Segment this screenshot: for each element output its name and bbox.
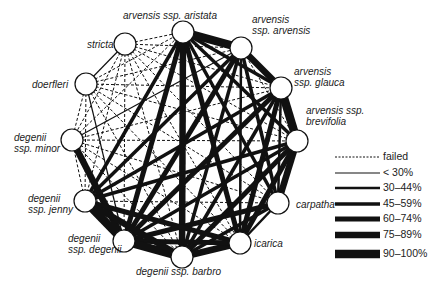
node-stricta: [114, 33, 136, 55]
node-arvensis: [230, 37, 252, 59]
legend-label: 45–59%: [383, 197, 422, 209]
legend-label: 90–100%: [383, 247, 427, 259]
label-doerfleri: doerfleri: [32, 79, 68, 90]
label-stricta: stricta: [87, 39, 114, 50]
label-carpatha: carpatha: [296, 199, 335, 210]
node-brevifolia: [286, 130, 308, 152]
network-diagram: [0, 0, 438, 290]
legend-label: 30–44%: [383, 181, 422, 193]
label-degenii: degeniissp. degenii: [68, 233, 121, 255]
legend-label: failed: [383, 150, 408, 162]
node-barbro: [171, 246, 193, 268]
edge-doerfleri-jenny: [85, 84, 86, 201]
label-arvensis: arvensisssp. arvensis: [252, 14, 310, 36]
node-aristata: [172, 21, 194, 43]
label-barbro: degenii ssp. barbro: [136, 266, 221, 277]
node-carpatha: [267, 192, 289, 214]
node-icarica: [229, 232, 251, 254]
node-jenny: [74, 190, 96, 212]
node-minor: [61, 129, 83, 151]
label-minor: degeniissp. minor: [14, 132, 60, 154]
label-glauca: arvensisssp. glauca: [294, 66, 345, 88]
legend-label: < 30%: [383, 166, 413, 178]
legend-label: 75–89%: [383, 228, 422, 240]
label-brevifolia: arvensis ssp.brevifolia: [306, 105, 364, 127]
label-aristata: arvensis ssp. aristata: [123, 10, 217, 21]
label-icarica: icarica: [254, 238, 283, 249]
node-doerfleri: [75, 73, 97, 95]
label-jenny: degeniissp. jenny: [28, 193, 73, 215]
legend-label: 60–74%: [383, 212, 422, 224]
node-glauca: [270, 77, 292, 99]
